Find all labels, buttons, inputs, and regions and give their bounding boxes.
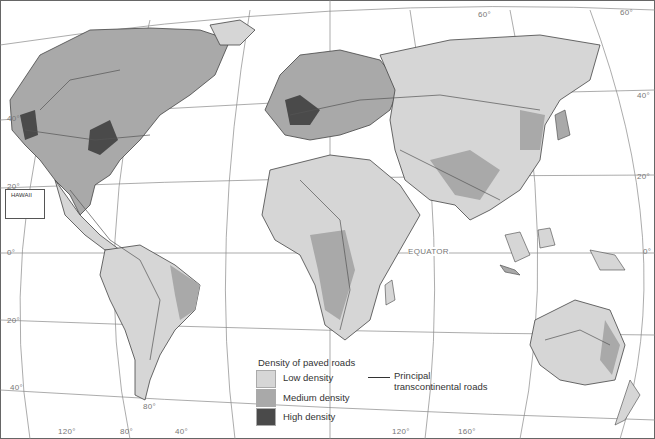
road-line-icon xyxy=(368,377,390,378)
high-density-swatch xyxy=(256,408,276,426)
latitude-label: 0° xyxy=(643,247,651,256)
longitude-label: 160° xyxy=(458,427,476,436)
high-density-label: High density xyxy=(283,411,335,422)
world-road-density-map: 60° 60° 40° 40° 20° 20° 0° 0° EQUATOR 20… xyxy=(0,0,655,439)
longitude-label: 120° xyxy=(392,427,410,436)
latitude-label: 40° xyxy=(7,114,20,123)
legend-title: Density of paved roads xyxy=(258,357,355,368)
longitude-label: 80° xyxy=(143,402,156,411)
road-key-label: Principal transcontinental roads xyxy=(394,370,487,392)
road-key-line1: Principal xyxy=(394,370,487,381)
low-density-swatch xyxy=(256,370,276,388)
latitude-label: 40° xyxy=(10,383,23,392)
latitude-label: 60° xyxy=(478,10,491,19)
latitude-label: 20° xyxy=(7,316,20,325)
longitude-label: 40° xyxy=(175,427,188,436)
hawaii-inset: HAWAII xyxy=(5,189,45,219)
latitude-label: 20° xyxy=(637,172,650,181)
latitude-label: 0° xyxy=(7,248,15,257)
road-key-line2: transcontinental roads xyxy=(394,381,487,392)
medium-density-swatch xyxy=(256,389,276,407)
longitude-label: 120° xyxy=(58,427,76,436)
hawaii-label: HAWAII xyxy=(11,192,32,198)
medium-density-label: Medium density xyxy=(283,392,350,403)
latitude-label: 60° xyxy=(620,8,633,17)
low-density-label: Low density xyxy=(283,372,333,383)
latitude-label: 40° xyxy=(637,91,650,100)
longitude-label: 80° xyxy=(120,427,133,436)
equator-label: EQUATOR xyxy=(408,247,449,256)
